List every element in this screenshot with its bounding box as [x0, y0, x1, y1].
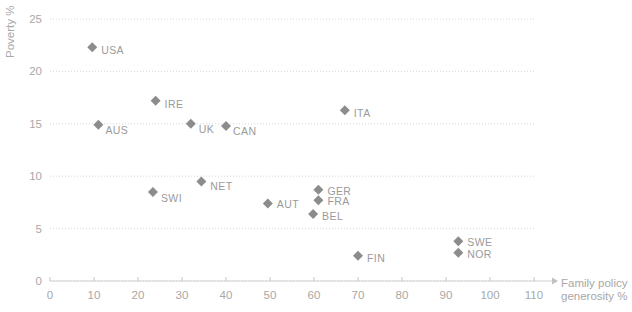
x-tick-label: 90	[440, 289, 453, 301]
x-tick-label: 30	[176, 289, 189, 301]
data-point-marker[interactable]	[340, 105, 350, 115]
data-point-marker[interactable]	[453, 236, 463, 246]
x-tick-label: 50	[264, 289, 277, 301]
data-point-label: SWI	[161, 192, 182, 204]
data-point-label: ITA	[354, 107, 371, 119]
y-tick-labels-group: 0510152025	[29, 13, 42, 287]
data-point-marker[interactable]	[263, 198, 273, 208]
data-point-marker[interactable]	[196, 176, 206, 186]
y-tick-label: 5	[36, 223, 42, 235]
x-tick-label: 20	[132, 289, 145, 301]
x-tick-label: 110	[525, 289, 543, 301]
data-point-label: AUT	[277, 198, 299, 210]
y-axis-title: Poverty %	[4, 6, 16, 58]
data-points-group: USAIREAUSUKCANITANETSWIGERFRAAUTBELSWENO…	[87, 42, 492, 264]
x-tick-labels-group: 0102030405060708090100110	[47, 289, 543, 301]
data-point-marker[interactable]	[353, 251, 363, 261]
x-tick-label: 70	[352, 289, 365, 301]
data-point-marker[interactable]	[453, 248, 463, 258]
x-tick-label: 0	[47, 289, 53, 301]
data-point-label: AUS	[105, 124, 128, 136]
data-point-marker[interactable]	[87, 42, 97, 52]
data-point-marker[interactable]	[221, 121, 231, 131]
axis-titles-group: Poverty % Family policy generosity %	[4, 6, 628, 302]
x-axis-title-line2: generosity %	[561, 290, 627, 302]
x-tick-label: 10	[88, 289, 101, 301]
data-point-label: FIN	[367, 252, 385, 264]
x-tick-label: 80	[396, 289, 409, 301]
data-point-label: BEL	[322, 210, 343, 222]
data-point-label: CAN	[233, 125, 256, 137]
x-axis-title-line1: Family policy	[561, 277, 628, 289]
data-point-marker[interactable]	[313, 185, 323, 195]
data-point-marker[interactable]	[93, 120, 103, 130]
scatter-chart: 0510152025 0102030405060708090100110 USA…	[0, 0, 632, 312]
y-tick-label: 20	[29, 65, 42, 77]
data-point-marker[interactable]	[308, 209, 318, 219]
chart-canvas: 0510152025 0102030405060708090100110 USA…	[0, 0, 632, 312]
data-point-marker[interactable]	[148, 187, 158, 197]
data-point-label: IRE	[165, 98, 184, 110]
x-tick-label: 40	[220, 289, 233, 301]
data-point-label: NOR	[467, 248, 492, 260]
x-axis-group	[50, 277, 558, 285]
data-point-label: FRA	[327, 195, 349, 207]
y-tick-label: 25	[29, 13, 42, 25]
data-point-marker[interactable]	[186, 119, 196, 129]
data-point-label: USA	[101, 44, 124, 56]
data-point-marker[interactable]	[313, 195, 323, 205]
y-tick-label: 10	[29, 170, 42, 182]
data-point-label: NET	[210, 180, 232, 192]
y-tick-label: 15	[29, 118, 42, 130]
y-tick-label: 0	[36, 275, 42, 287]
x-tick-label: 100	[480, 289, 499, 301]
data-point-label: SWE	[467, 236, 492, 248]
x-axis-arrow-icon	[552, 278, 558, 285]
data-point-label: UK	[199, 123, 214, 135]
gridlines-group	[50, 19, 536, 281]
x-tick-label: 60	[308, 289, 321, 301]
data-point-marker[interactable]	[151, 96, 161, 106]
